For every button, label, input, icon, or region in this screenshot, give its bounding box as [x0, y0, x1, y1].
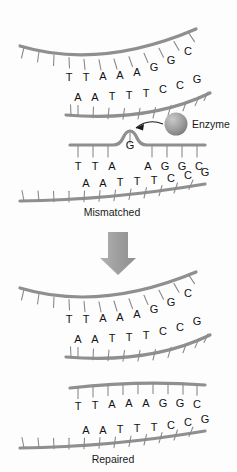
base-letter: A [133, 66, 141, 78]
base-letter: A [116, 311, 124, 323]
base-letter: G [201, 413, 210, 425]
base-letter: G [167, 54, 176, 66]
base-letter: A [74, 91, 82, 103]
base-letter: G [193, 315, 202, 327]
dna-repair-figure: T T A A A G G C [0, 0, 237, 472]
panel-label-repaired: Repaired [92, 453, 135, 465]
base-letter: T [92, 399, 99, 411]
base-letter: T [66, 71, 73, 83]
base-letter: T [126, 331, 133, 343]
base-letter: G [161, 160, 170, 172]
enzyme-label: Enzyme [192, 118, 230, 130]
base-letter: A [82, 424, 90, 436]
base-letter: T [143, 329, 150, 341]
base-letter: C [176, 79, 184, 91]
base-letter: G [159, 397, 168, 409]
base-letter: G [193, 73, 202, 85]
base-letter: A [142, 397, 150, 409]
base-letter: C [184, 45, 192, 57]
base-letter: G [176, 397, 185, 409]
base-letter: C [159, 325, 167, 337]
base-letter: G [150, 61, 159, 73]
base-letter: A [74, 333, 82, 345]
base-letter: C [184, 416, 192, 428]
base-letter: T [151, 421, 158, 433]
base-letter: T [134, 422, 141, 434]
base-letter: A [133, 308, 141, 320]
base-letter: A [144, 160, 152, 172]
base-letter: C [167, 419, 175, 431]
base-letter: A [108, 160, 116, 172]
base-letter: C [159, 83, 167, 95]
base-letter: T [117, 176, 124, 188]
base-letter: C [176, 321, 184, 333]
base-letter: A [99, 312, 107, 324]
base-letter: T [109, 332, 116, 344]
base-letter: T [66, 313, 73, 325]
base-letter: A [91, 333, 99, 345]
base-letter: T [83, 313, 90, 325]
base-letter: A [91, 91, 99, 103]
base-letter: T [126, 89, 133, 101]
base-letter: T [75, 400, 82, 412]
enzyme-icon [165, 113, 188, 136]
base-letter: A [82, 177, 90, 189]
base-letter: T [134, 175, 141, 187]
base-letter: A [125, 397, 133, 409]
base-letter: C [167, 172, 175, 184]
base-letter: G [150, 303, 159, 315]
base-letter: A [99, 177, 107, 189]
base-letter: C [184, 287, 192, 299]
base-letter: A [116, 69, 124, 81]
base-letter-bulge: G [126, 139, 135, 151]
base-letter: A [99, 70, 107, 82]
base-letter: T [151, 174, 158, 186]
base-letter: T [92, 160, 99, 172]
base-letter: A [99, 424, 107, 436]
base-letter: G [201, 166, 210, 178]
base-letter: T [143, 87, 150, 99]
base-letter: A [108, 398, 116, 410]
diagram-canvas: T T A A A G G C [0, 0, 237, 472]
base-letter: T [117, 423, 124, 435]
base-letter: C [193, 398, 201, 410]
base-letter: T [109, 90, 116, 102]
base-letter: G [167, 296, 176, 308]
panel-label-mismatched: Mismatched [84, 206, 141, 218]
base-letter: C [184, 169, 192, 181]
base-letter: T [75, 160, 82, 172]
base-letter: T [83, 71, 90, 83]
